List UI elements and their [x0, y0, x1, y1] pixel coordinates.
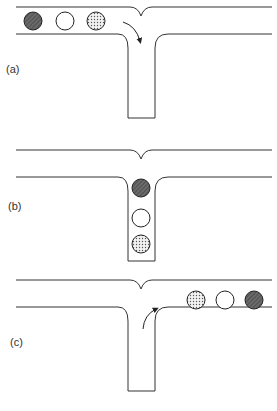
panel-label-a: (a) [6, 63, 19, 75]
panel-b-balls [132, 179, 150, 253]
ball-white [216, 291, 234, 309]
panel-label-c: (c) [10, 336, 23, 348]
arrow-icon [143, 309, 156, 329]
panel-c-balls [187, 291, 263, 309]
panel-label-b: (b) [8, 200, 21, 212]
panel-a [16, 7, 272, 118]
ball-dark [132, 179, 150, 197]
t-junction-diagram [0, 0, 277, 411]
ball-dotted [87, 12, 105, 30]
ball-dotted [132, 235, 150, 253]
ball-white [132, 209, 150, 227]
ball-white [56, 12, 74, 30]
channel-outline [16, 7, 272, 118]
ball-dark [245, 291, 263, 309]
ball-dark [24, 12, 42, 30]
ball-dotted [187, 291, 205, 309]
